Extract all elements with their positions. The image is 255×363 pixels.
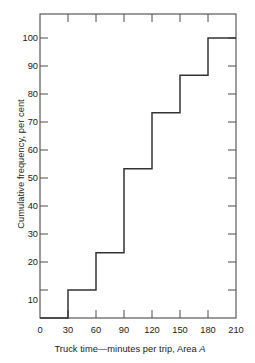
plot-svg xyxy=(0,0,255,363)
plot-frame xyxy=(40,14,236,318)
cumulative-frequency-chart: Cumulative frequency, per cent Truck tim… xyxy=(0,0,255,363)
